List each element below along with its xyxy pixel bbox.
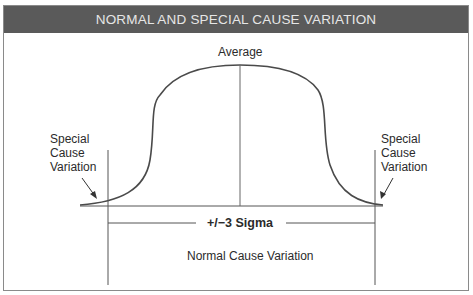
label-line: Special (50, 132, 96, 146)
normal-cause-label: Normal Cause Variation (187, 249, 314, 263)
special-cause-left-label: Special Cause Variation (50, 132, 96, 174)
label-line: Special (381, 132, 427, 146)
average-label: Average (218, 45, 262, 59)
label-line: Cause (50, 146, 96, 160)
sigma-label: +/−3 Sigma (207, 216, 273, 230)
bell-curve (80, 65, 383, 205)
special-cause-right-label: Special Cause Variation (381, 132, 427, 174)
label-line: Cause (381, 146, 427, 160)
label-line: Variation (381, 160, 427, 174)
arrow-left-head (90, 191, 97, 199)
label-line: Variation (50, 160, 96, 174)
